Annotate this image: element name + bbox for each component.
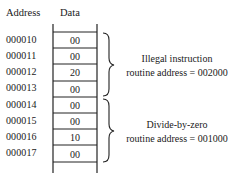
brace-icon	[103, 33, 114, 162]
address-label: 000014	[6, 99, 37, 110]
data-cell: 00	[56, 149, 94, 160]
data-cell: 00	[56, 51, 94, 62]
address-header: Address	[6, 7, 40, 18]
address-label: 000015	[6, 115, 37, 126]
note-line: routine address = 001000	[118, 132, 236, 146]
data-cell: 00	[56, 35, 94, 46]
address-label: 000012	[6, 66, 37, 77]
note-line: routine address = 002000	[118, 66, 236, 80]
address-label: 000013	[6, 82, 37, 93]
address-label: 000016	[6, 131, 37, 142]
data-cell: 20	[56, 67, 94, 78]
address-label: 000011	[6, 50, 36, 61]
note-line: Divide-by-zero	[118, 118, 236, 132]
note-line: Illegal instruction	[118, 52, 236, 66]
address-label: 000010	[6, 34, 37, 45]
data-cell: 00	[56, 84, 94, 95]
address-label: 000017	[6, 147, 37, 158]
data-cell: 00	[56, 116, 94, 127]
data-header: Data	[60, 7, 80, 18]
memory-table-lines	[0, 0, 238, 193]
group-note-illegal-instruction: Illegal instruction routine address = 00…	[118, 52, 236, 80]
data-cell: 00	[56, 100, 94, 111]
group-note-divide-by-zero: Divide-by-zero routine address = 001000	[118, 118, 236, 146]
data-cell: 10	[56, 132, 94, 143]
